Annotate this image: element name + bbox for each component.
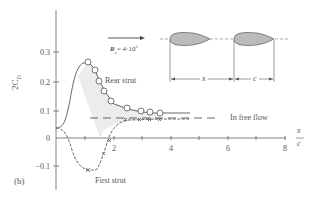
rear-strut-label: Rear strut [105,76,136,85]
ytick-0-3: 0.3 [40,48,50,57]
ytick-0: 0 [46,134,50,143]
diagram-c-label: c [251,74,259,83]
ytick-neg-0-1: −0.1 [35,162,50,171]
diagram-x-label: x [200,74,208,83]
reynolds-label: Rc= 4·105 [110,44,138,55]
x-axis-label-num: x [297,126,301,135]
ytick-0-2: 0.2 [40,78,50,87]
flow-arrowhead [140,36,145,40]
first-strut-label: First strut [95,176,126,185]
x-axis-label-den: c [297,139,301,148]
strut-diagram [160,33,290,82]
xtick-8: 8 [283,144,287,153]
xtick-2: 2 [112,144,116,153]
xtick-4: 4 [169,144,173,153]
ytick-0-1: 0.1 [40,107,50,116]
free-flow-label: In free flow [230,113,268,122]
xtick-6: 6 [226,144,230,153]
stipple-region [78,62,160,138]
y-axis-label: 2CD [10,75,22,90]
drag-chart: 0.3 0.2 0.1 0 −0.1 2 4 6 8 [0,0,311,199]
panel-label: (b) [14,176,25,186]
